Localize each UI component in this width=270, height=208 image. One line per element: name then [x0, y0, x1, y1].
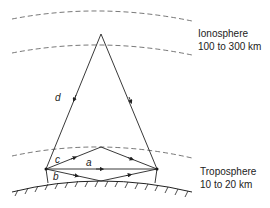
- troposphere-name: Troposphere: [200, 165, 256, 178]
- path-b-label: b: [53, 171, 59, 182]
- troposphere-boundary: [12, 147, 192, 158]
- ionosphere-lower-boundary: [12, 45, 192, 55]
- receiver-mast: [155, 169, 157, 183]
- earth-surface: [12, 181, 192, 192]
- path-a-label: a: [86, 157, 92, 168]
- transmitter-mast: [46, 169, 48, 183]
- troposphere-label: Troposphere 10 to 20 km: [200, 165, 256, 191]
- ionosphere-name: Ionosphere: [198, 27, 261, 40]
- path-c: [46, 147, 157, 169]
- path-d-label: d: [55, 92, 61, 103]
- troposphere-range: 10 to 20 km: [200, 178, 256, 191]
- ionosphere-range: 100 to 300 km: [198, 40, 261, 53]
- ground-hatching: [15, 181, 188, 197]
- path-c-label: c: [55, 154, 60, 165]
- propagation-diagram: d c a b Ionosphere 100 to 300 km Troposp…: [0, 0, 270, 208]
- path-b: [46, 169, 157, 181]
- ionosphere-upper-boundary: [12, 11, 192, 21]
- ionosphere-label: Ionosphere 100 to 300 km: [198, 27, 261, 53]
